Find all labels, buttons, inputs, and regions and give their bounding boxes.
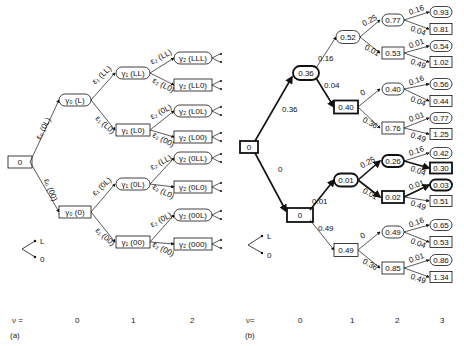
legend-b: L 0 <box>248 232 272 260</box>
node-label: 1.02 <box>433 58 449 67</box>
node-label: γ₁ (LL) <box>121 69 144 78</box>
edge-label: ε₂ (00) <box>151 130 176 149</box>
leaf-node: 0.03 <box>430 180 452 191</box>
level1-node: 0.36 <box>293 66 319 80</box>
node-label: 0.49 <box>338 246 354 255</box>
leaf-node: 0.30 <box>430 163 452 174</box>
level3-node: 0.02 <box>382 191 404 203</box>
node-label: 0.51 <box>433 197 449 206</box>
edge-label: 0.49 <box>318 224 334 233</box>
node-label: γ₂ (L0L) <box>179 107 207 116</box>
edge-label: ε₂ (L0) <box>151 182 176 201</box>
level3-node: 0.76 <box>382 122 404 134</box>
panel-caption: (b) <box>245 331 255 340</box>
edge-label: 0.04 <box>409 236 427 250</box>
edge-label: 0.01 <box>312 197 328 206</box>
edge-label: 0.01 <box>408 251 426 265</box>
node-label: γ₀ (L) <box>65 96 85 105</box>
node-label: 0.30 <box>433 164 449 173</box>
node-label: 0 <box>247 143 252 152</box>
node-label: 0.44 <box>433 97 449 106</box>
edge <box>310 180 334 210</box>
node-label: γ₂ (00L) <box>179 211 207 220</box>
edge-label: 0.16 <box>408 3 426 17</box>
edge-label: ε₂ (L0) <box>151 76 176 95</box>
leaf-node: 0.53 <box>430 237 452 248</box>
node-label: 0.02 <box>385 193 401 202</box>
edge-label: ε₁ (0L) <box>90 175 113 197</box>
edge-label: 0.49 <box>409 57 427 71</box>
legend-a: L 0 <box>22 237 45 264</box>
axis-tick: 1 <box>131 316 136 325</box>
node-label: 0.01 <box>338 176 354 185</box>
gamma2-node: γ₂ (000) <box>174 238 212 250</box>
node-label: 0.36 <box>298 69 314 78</box>
legend-up-label: L <box>267 232 272 241</box>
axis-a: ν = 0 1 2 (a) <box>10 316 195 340</box>
node-label: 0.65 <box>433 221 449 230</box>
node-label: 0.42 <box>433 149 449 158</box>
gamma2-node: γ₂ (LLL) <box>174 52 212 64</box>
axis-b: ν= 0 1 2 3 (b) <box>245 316 445 340</box>
root-node: 0 <box>8 156 32 168</box>
edge-label: 0.36 <box>361 257 379 273</box>
level3-node: 0.85 <box>382 262 404 274</box>
edge-label: 0.49 <box>409 130 427 144</box>
trellis-diagram: 0ε₀ (0L)γ₀ (L)ε₀ (00)γ₀ (0)ε₁ (LL)γ₁ (LL… <box>0 0 464 346</box>
legend-down-label: 0 <box>267 251 272 260</box>
edge-label: 0.04 <box>324 81 340 90</box>
node-label: 0.81 <box>433 25 449 34</box>
node-label: γ₂ (LL0) <box>179 81 207 90</box>
level2-node: 0.49 <box>334 244 358 257</box>
edge-label: 0.01 <box>408 36 426 50</box>
edge-label: ε₂ (00) <box>151 240 176 259</box>
edge-label: 0.16 <box>318 54 334 63</box>
edge-label: 0.36 <box>361 115 379 131</box>
level3-node: 0.77 <box>382 14 404 26</box>
edge-label: 0.04 <box>409 94 427 108</box>
edge <box>316 37 336 68</box>
node-label: 0.03 <box>433 181 449 190</box>
gamma0-node: γ₀ (L) <box>59 94 91 106</box>
level2-node: 0.01 <box>334 174 358 187</box>
edge-label: 0.01 <box>408 178 426 192</box>
node-label: 0.53 <box>433 238 449 247</box>
leaf-node: 1.34 <box>430 272 452 283</box>
gamma1-node: γ₁ (0L) <box>116 178 150 190</box>
edge-label: 0.49 <box>409 272 427 286</box>
edge-label: ε₁ (00) <box>94 226 117 248</box>
leaf-node: 1.02 <box>430 57 452 68</box>
legend-up-label: L <box>40 237 45 246</box>
edge-label: 0.01 <box>361 186 379 202</box>
level1-node: 0 <box>287 208 313 222</box>
gamma1-node: γ₁ (LL) <box>116 67 150 79</box>
node-label: 0.77 <box>433 114 449 123</box>
level2-node: 0.52 <box>336 31 360 44</box>
node-label: γ₂ (0L0) <box>179 183 207 192</box>
gamma2-node: γ₂ (LL0) <box>174 79 212 91</box>
gamma2-node: γ₂ (L00) <box>174 131 212 143</box>
node-label: 0.52 <box>340 33 356 42</box>
edge-label: 0.01 <box>408 110 426 124</box>
edge-label: ε₀ (00) <box>42 177 59 202</box>
leaf-node: 0.93 <box>430 7 452 18</box>
axis-label: ν = <box>12 316 23 325</box>
edge-label: ε₁ (L0) <box>94 114 117 136</box>
node-label: γ₁ (L0) <box>121 126 144 135</box>
level2-node: 0.40 <box>334 101 358 114</box>
node-label: γ₀ (0) <box>65 208 85 217</box>
node-label: 0 <box>18 158 23 167</box>
leaf-node: 0.56 <box>430 79 452 90</box>
axis-tick: 2 <box>190 316 195 325</box>
panel-caption: (a) <box>10 331 20 340</box>
edge <box>255 153 286 211</box>
axis-tick: 2 <box>395 316 400 325</box>
root-node: 0 <box>240 141 258 153</box>
leaf-node: 0.77 <box>430 113 452 124</box>
gamma1-node: γ₁ (L0) <box>116 124 150 136</box>
node-label: 0.49 <box>385 228 401 237</box>
edge-label: ε₁ (LL) <box>90 64 113 86</box>
node-label: 0.86 <box>433 256 449 265</box>
node-label: 0.77 <box>385 16 401 25</box>
edge-label: ε₂ (LL) <box>149 153 174 172</box>
